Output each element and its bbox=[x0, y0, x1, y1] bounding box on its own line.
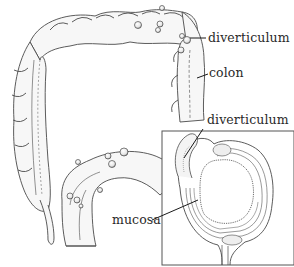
label-colon: colon bbox=[209, 67, 244, 80]
cross-section-inset bbox=[162, 131, 294, 265]
label-diverticulum-colon: diverticulum bbox=[208, 32, 290, 45]
label-mucosa: mucosa bbox=[112, 214, 161, 227]
label-diverticulum-inset: diverticulum bbox=[207, 114, 289, 127]
